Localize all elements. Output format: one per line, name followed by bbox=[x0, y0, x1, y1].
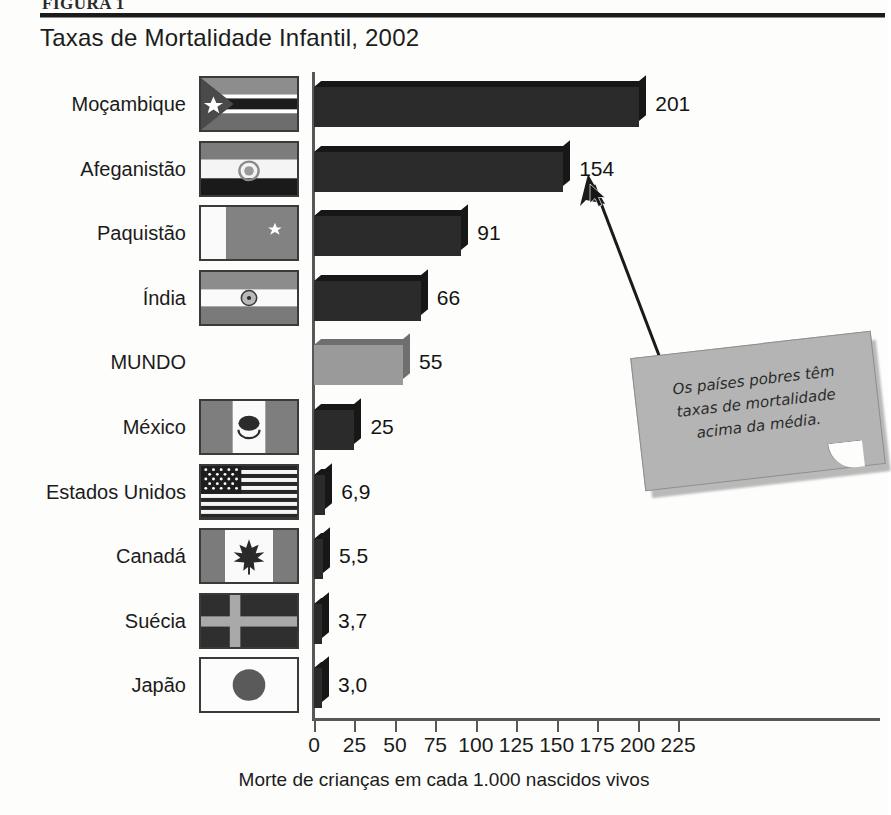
flag-afghanistan-icon bbox=[199, 141, 299, 197]
bar bbox=[314, 469, 325, 515]
flag-united-states-icon bbox=[199, 464, 299, 520]
x-axis-tick-label: 100 bbox=[458, 733, 493, 757]
flag-mexico-icon bbox=[199, 399, 299, 455]
chart-row: Suécia 3,7 bbox=[0, 589, 888, 653]
mouse-cursor-icon bbox=[589, 183, 609, 209]
x-axis-line bbox=[312, 718, 880, 721]
flag-canada-icon bbox=[199, 528, 299, 584]
x-axis-tick bbox=[476, 721, 478, 732]
country-label: Afeganistão bbox=[80, 157, 186, 180]
bar-value-label: 3,0 bbox=[338, 673, 367, 697]
bar-front-face bbox=[314, 475, 325, 515]
country-label: Índia bbox=[143, 286, 186, 309]
bar-side-face bbox=[461, 204, 468, 250]
x-axis-tick bbox=[557, 721, 559, 732]
bar-side-face bbox=[421, 269, 428, 315]
callout-note: Os países pobres têm taxas de mortalidad… bbox=[637, 344, 885, 486]
flag-japan-icon bbox=[199, 657, 299, 713]
x-axis-tick-label: 0 bbox=[308, 733, 320, 757]
bar-front-face bbox=[314, 410, 354, 450]
bar-value-label: 3,7 bbox=[338, 609, 367, 633]
bar-front-face bbox=[314, 281, 421, 321]
bar-side-face bbox=[354, 398, 361, 444]
bar-side-face bbox=[322, 592, 329, 638]
bar-value-label: 5,5 bbox=[339, 544, 368, 568]
x-axis-tick-label: 125 bbox=[499, 733, 534, 757]
bar-side-face bbox=[325, 463, 332, 509]
country-label: México bbox=[123, 416, 186, 439]
x-axis-tick-label: 225 bbox=[661, 733, 696, 757]
bar-front-face bbox=[314, 87, 639, 127]
country-label: Paquistão bbox=[97, 222, 186, 245]
bar-value-label: 201 bbox=[655, 92, 690, 116]
flag-mozambique-icon bbox=[199, 76, 299, 132]
bar-front-face bbox=[314, 152, 563, 192]
bar-front-face bbox=[314, 345, 403, 385]
x-axis-tick bbox=[435, 721, 437, 732]
chart-row: Moçambique 201 bbox=[0, 72, 888, 136]
country-label: Moçambique bbox=[71, 93, 186, 116]
x-axis-tick-label: 200 bbox=[620, 733, 655, 757]
bar bbox=[314, 598, 322, 644]
x-axis-tick bbox=[395, 721, 397, 732]
x-axis-tick bbox=[314, 721, 316, 732]
bar-side-face bbox=[323, 527, 330, 573]
bar bbox=[314, 662, 322, 708]
country-label: Canadá bbox=[116, 545, 186, 568]
country-label: Japão bbox=[132, 674, 187, 697]
bar bbox=[314, 146, 563, 192]
note-text: Os países pobres têm taxas de mortalidad… bbox=[630, 331, 883, 489]
bar-side-face bbox=[322, 657, 329, 703]
country-label: MUNDO bbox=[110, 351, 186, 374]
x-axis-tick-label: 175 bbox=[580, 733, 615, 757]
country-label: Estados Unidos bbox=[46, 480, 186, 503]
x-axis-tick-label: 150 bbox=[539, 733, 574, 757]
bar-value-label: 55 bbox=[419, 350, 442, 374]
bar-front-face bbox=[314, 668, 322, 708]
x-axis-tick bbox=[516, 721, 518, 732]
bar-side-face bbox=[403, 334, 410, 380]
bar-value-label: 25 bbox=[370, 415, 393, 439]
flag-india-icon bbox=[199, 270, 299, 326]
bar-front-face bbox=[314, 216, 461, 256]
x-axis-tick bbox=[678, 721, 680, 732]
bar bbox=[314, 81, 639, 127]
x-axis-tick bbox=[354, 721, 356, 732]
bar-front-face bbox=[314, 539, 323, 579]
x-axis-tick-label: 25 bbox=[343, 733, 366, 757]
bar-front-face bbox=[314, 604, 322, 644]
flag-pakistan-icon bbox=[199, 205, 299, 261]
bar-value-label: 6,9 bbox=[341, 480, 370, 504]
bar bbox=[314, 533, 323, 579]
bar-side-face bbox=[639, 75, 646, 121]
x-axis-tick bbox=[638, 721, 640, 732]
chart-row: Japão 3,0 bbox=[0, 653, 888, 717]
bar bbox=[314, 275, 421, 321]
flag-sweden-icon bbox=[199, 593, 299, 649]
bar bbox=[314, 339, 403, 385]
x-axis-tick bbox=[597, 721, 599, 732]
bar-value-label: 66 bbox=[437, 286, 460, 310]
chart-row: Canadá 5,5 bbox=[0, 524, 888, 588]
x-axis-caption: Morte de crianças em cada 1.000 nascidos… bbox=[0, 769, 888, 791]
x-axis-tick-label: 75 bbox=[424, 733, 447, 757]
x-axis-tick-label: 50 bbox=[383, 733, 406, 757]
bar-value-label: 91 bbox=[477, 221, 500, 245]
country-label: Suécia bbox=[125, 609, 186, 632]
bar bbox=[314, 404, 354, 450]
bar bbox=[314, 210, 461, 256]
